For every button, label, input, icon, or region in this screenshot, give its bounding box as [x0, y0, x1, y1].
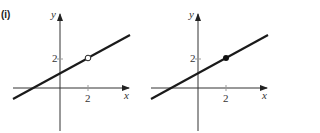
x-axis-label: x [124, 89, 129, 101]
y-axis-label: y [51, 8, 56, 20]
y-tick-label: 2 [52, 52, 58, 64]
y-tick-label: 2 [190, 52, 196, 64]
y-axis-label: y [189, 8, 194, 20]
x-tick-label: 2 [223, 92, 229, 104]
x-axis-label: x [262, 89, 267, 101]
x-tick-label: 2 [85, 92, 91, 104]
